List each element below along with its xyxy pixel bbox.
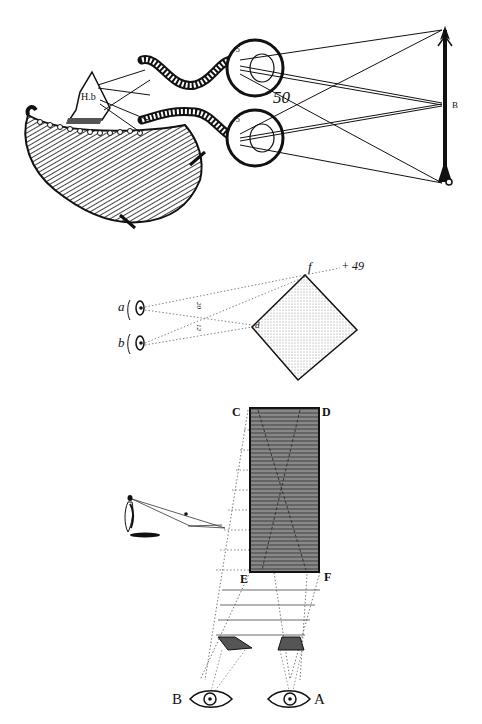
optics-illustration: H.b 5 5 50 [0,0,482,724]
eye-a-label: a [118,299,125,314]
figure-rectangle-projection: C D E F B A [125,405,331,707]
head-label: H.b [81,91,96,102]
line-mark-20: 20 [195,302,203,310]
figure-number: 50 [273,88,291,107]
standing-figure-icon [125,495,160,538]
line-mark-12: 12 [195,324,203,332]
eye-a-label: A [314,691,325,707]
brain-icon [25,115,201,222]
eye-a-icon [128,300,144,320]
prism-left-icon [218,637,252,650]
figure-number: 49 [352,259,364,273]
corner-d-label: d [255,320,260,330]
figure-square-distance: a b 20 12 f d + 49 [118,259,364,380]
corner-d-label: D [322,405,331,419]
eye-b-label: b [118,335,125,350]
corner-f-label: F [324,570,331,584]
figure-binocular-vision: H.b 5 5 50 [25,26,458,228]
eye-a-icon [268,691,310,708]
corner-f-label: f [308,259,314,274]
eye-b-icon [190,691,232,708]
corner-e-label: E [240,572,248,586]
figure-plus: + [342,259,349,273]
prism-right-icon [278,637,304,650]
arrow-icon [438,26,452,185]
eye-mark: 5 [236,45,240,54]
square-icon [252,275,357,380]
eye-b-label: B [172,691,182,707]
eye-mark: 5 [236,115,240,124]
eye-b-icon [128,334,144,354]
arrow-mid-label: B [452,100,458,110]
corner-c-label: C [232,405,241,419]
